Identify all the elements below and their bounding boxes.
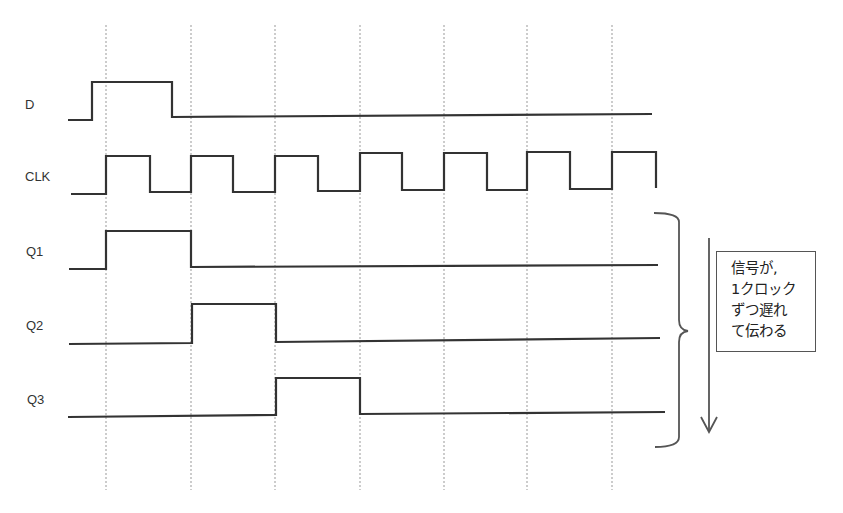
signal-label-d: D	[25, 97, 34, 112]
signal-label-clk: CLK	[25, 169, 50, 184]
annotation-line-4: て伝わる	[731, 321, 815, 342]
gridlines	[106, 25, 612, 490]
annotation-box: 信号が, 1クロック ずつ遅れ て伝わる	[716, 251, 816, 352]
annotation-line-2: 1クロック	[731, 279, 815, 300]
signal-label-q2: Q2	[26, 318, 43, 333]
signal-label-q3: Q3	[27, 392, 44, 407]
arrow-down-icon	[701, 238, 717, 432]
signal-q2-waveform	[69, 304, 660, 344]
annotation-line-1: 信号が,	[731, 258, 815, 279]
signal-q1-waveform	[69, 231, 658, 269]
annotation-line-3: ずつ遅れ	[731, 300, 815, 321]
signal-clk-waveform	[71, 152, 656, 194]
signal-q3-waveform	[68, 378, 665, 417]
signal-label-q1: Q1	[26, 244, 43, 259]
